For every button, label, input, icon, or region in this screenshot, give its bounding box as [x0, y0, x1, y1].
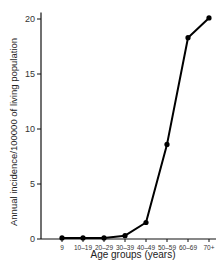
data-point-marker [101, 235, 106, 240]
data-point-marker [80, 235, 85, 240]
line-chart: 05101520 910–1920–2930–3940–4950–5960–69… [0, 0, 224, 270]
y-tick-label: 15 [25, 69, 35, 79]
y-axis-title: Annual incidence/100000 of living popula… [8, 38, 19, 226]
data-point-marker [59, 235, 64, 240]
y-tick-label: 5 [30, 179, 35, 189]
x-tick-label: 60–69 [179, 244, 197, 251]
y-tick-label: 0 [30, 234, 35, 244]
data-point-marker [122, 233, 127, 238]
x-axis-title: Age groups (years) [90, 249, 175, 260]
y-tick-label: 20 [25, 14, 35, 24]
data-point-marker [206, 15, 211, 20]
data-point-marker [185, 35, 190, 40]
y-axis: 05101520 [25, 13, 41, 245]
data-point-marker [143, 220, 148, 225]
data-series [59, 15, 211, 240]
x-tick-label: 70+ [203, 244, 214, 251]
y-tick-label: 10 [25, 124, 35, 134]
series-line [62, 18, 209, 238]
x-tick-label: 9 [60, 244, 64, 251]
data-point-marker [164, 142, 169, 147]
